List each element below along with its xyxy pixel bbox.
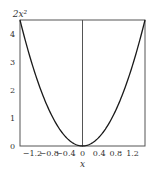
chart: −1.2−0.8−0.400.40.81.2 01234 2x² x bbox=[0, 0, 153, 173]
x-tick-label: 1.2 bbox=[126, 149, 139, 158]
y-tick-label: 4 bbox=[10, 30, 15, 39]
y-tick-labels: 01234 bbox=[10, 30, 15, 151]
y-axis-label: 2x² bbox=[12, 9, 28, 19]
x-tick-label: −0.4 bbox=[56, 149, 75, 158]
x-tick-label: 0 bbox=[80, 149, 85, 158]
x-axis-label: x bbox=[80, 159, 85, 169]
x-tick-label: 0.4 bbox=[93, 149, 106, 158]
y-tick-label: 1 bbox=[10, 114, 15, 123]
y-tick-label: 0 bbox=[10, 142, 15, 151]
y-tick-label: 2 bbox=[10, 86, 15, 95]
x-tick-labels: −1.2−0.8−0.400.40.81.2 bbox=[23, 149, 139, 158]
y-tick-label: 3 bbox=[10, 58, 15, 67]
x-tick-label: 0.8 bbox=[109, 149, 122, 158]
